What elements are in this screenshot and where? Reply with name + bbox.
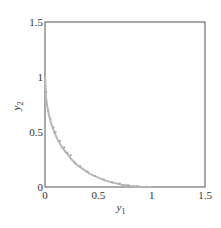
data-point <box>111 182 113 184</box>
x-axis-label: y1 <box>116 201 126 216</box>
data-point <box>127 184 129 186</box>
data-point <box>66 152 68 154</box>
data-point <box>63 146 65 148</box>
data-point <box>44 74 46 76</box>
data-point <box>119 183 121 185</box>
data-point <box>70 154 72 156</box>
pareto-front-chart: 00.511.5 00.511.5 y1 y2 <box>0 0 221 228</box>
x-tick-label: 1 <box>149 189 155 201</box>
data-point <box>47 109 49 111</box>
data-point <box>55 131 57 133</box>
y-tick-label: 1.5 <box>29 16 43 28</box>
x-axis-label-subscript: 1 <box>121 207 125 216</box>
data-point <box>49 118 51 120</box>
data-point <box>79 165 81 167</box>
series-layer <box>44 74 152 188</box>
y-axis-label-subscript: 2 <box>16 102 25 106</box>
y-tick-label: 1 <box>38 71 44 83</box>
data-point <box>45 91 47 93</box>
front-curve <box>45 77 152 187</box>
data-point <box>94 175 96 177</box>
x-tick-label: 1.5 <box>198 189 212 201</box>
data-point <box>87 171 89 173</box>
x-tick-label: 0.5 <box>91 189 105 201</box>
x-axis-ticks: 00.511.5 <box>42 189 212 201</box>
data-point <box>74 162 76 164</box>
data-point <box>59 140 61 142</box>
data-point <box>103 178 105 180</box>
data-point <box>136 185 138 187</box>
data-point <box>145 186 147 188</box>
y-tick-label: 0.5 <box>29 126 43 138</box>
y-axis-ticks: 00.511.5 <box>29 16 43 193</box>
plot-frame <box>45 22 205 187</box>
y-axis-label: y2 <box>10 102 25 112</box>
y-tick-label: 0 <box>38 181 44 193</box>
x-tick-label: 0 <box>42 189 48 201</box>
axes-box <box>45 22 205 187</box>
data-point <box>52 127 54 129</box>
